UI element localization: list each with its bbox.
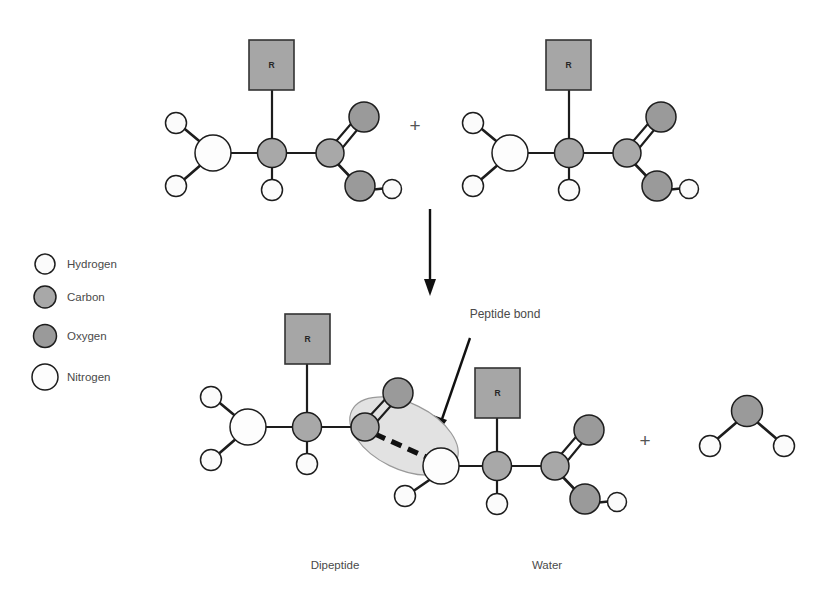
oxygen-swatch-icon — [34, 325, 57, 348]
atom-hydrogen — [559, 180, 580, 201]
nitrogen-swatch-icon — [32, 364, 58, 390]
r-group-label: R — [268, 60, 274, 70]
r-group-label: R — [565, 60, 571, 70]
atom-hydrogen — [680, 180, 699, 199]
atom-oxygen-hydroxyl — [345, 171, 375, 201]
reaction-arrow — [424, 209, 436, 296]
atom-nitrogen — [195, 135, 231, 171]
r-group-label: R — [304, 334, 310, 344]
atom-hydrogen — [487, 494, 508, 515]
r-group-dipeptide-left: R — [285, 314, 330, 364]
atom-hydrogen — [166, 176, 187, 197]
atom-oxygen-carbonyl — [349, 102, 379, 132]
atom-nitrogen-amide — [423, 448, 459, 484]
reaction-arrow-head-icon — [424, 279, 436, 296]
atom-nitrogen — [492, 135, 528, 171]
atom-oxygen-carbonyl — [574, 415, 604, 445]
legend-label-oxygen: Oxygen — [67, 330, 107, 342]
legend-item-carbon: Carbon — [34, 286, 105, 308]
r-group-2: R — [546, 40, 591, 90]
water-molecule — [700, 396, 795, 457]
atom-carbon-alpha — [293, 413, 322, 442]
legend: Hydrogen Carbon Oxygen Nitrogen — [32, 254, 117, 390]
legend-item-oxygen: Oxygen — [34, 325, 107, 348]
atom-carbon-carboxyl — [613, 139, 641, 167]
atom-hydrogen — [201, 450, 222, 471]
atom-carbon-alpha — [483, 452, 512, 481]
atom-hydrogen — [395, 486, 416, 507]
atom-oxygen-hydroxyl — [642, 171, 672, 201]
atom-carbon-carboxyl — [316, 139, 344, 167]
atom-hydrogen — [463, 176, 484, 197]
atom-oxygen-carbonyl — [383, 378, 413, 408]
products-plus-sign: + — [639, 430, 650, 451]
carbon-swatch-icon — [34, 286, 56, 308]
atom-hydrogen — [166, 113, 187, 134]
reactants-plus-sign: + — [409, 115, 420, 136]
r-group-label: R — [494, 388, 500, 398]
atom-hydrogen — [608, 493, 627, 512]
peptide-bond-diagram: Hydrogen Carbon Oxygen Nitrogen — [0, 0, 821, 598]
atom-oxygen — [732, 396, 763, 427]
atom-oxygen-hydroxyl — [570, 484, 600, 514]
atom-hydrogen — [463, 113, 484, 134]
peptide-bond-label: Peptide bond — [470, 307, 541, 321]
atom-hydrogen — [383, 180, 402, 199]
hydrogen-swatch-icon — [35, 254, 55, 274]
atom-nitrogen-terminal — [230, 409, 266, 445]
legend-label-nitrogen: Nitrogen — [67, 371, 110, 383]
bond-o-h1 — [716, 422, 737, 440]
atom-hydrogen — [700, 436, 721, 457]
caption-dipeptide: Dipeptide — [311, 559, 360, 571]
caption-water: Water — [532, 559, 562, 571]
atom-hydrogen — [774, 436, 795, 457]
bond-o-h2 — [757, 422, 778, 440]
diagram-canvas: Hydrogen Carbon Oxygen Nitrogen — [0, 0, 821, 598]
amino-acid-1: R — [166, 40, 402, 201]
atom-hydrogen — [297, 454, 318, 475]
atom-carbon-carbonyl — [351, 413, 379, 441]
legend-label-carbon: Carbon — [67, 291, 105, 303]
atom-carbon-alpha — [555, 139, 584, 168]
atom-carbon-carboxyl — [541, 452, 569, 480]
atom-carbon-alpha — [258, 139, 287, 168]
r-group-dipeptide-right: R — [475, 368, 520, 418]
amino-acid-2: R — [463, 40, 699, 201]
r-group-1: R — [249, 40, 294, 90]
peptide-bond-pointer-shaft — [441, 338, 470, 422]
atom-oxygen-carbonyl — [646, 102, 676, 132]
legend-label-hydrogen: Hydrogen — [67, 258, 117, 270]
atom-hydrogen — [201, 387, 222, 408]
dipeptide-molecule: R R — [201, 314, 627, 515]
legend-item-hydrogen: Hydrogen — [35, 254, 117, 274]
atom-hydrogen — [262, 180, 283, 201]
legend-item-nitrogen: Nitrogen — [32, 364, 110, 390]
